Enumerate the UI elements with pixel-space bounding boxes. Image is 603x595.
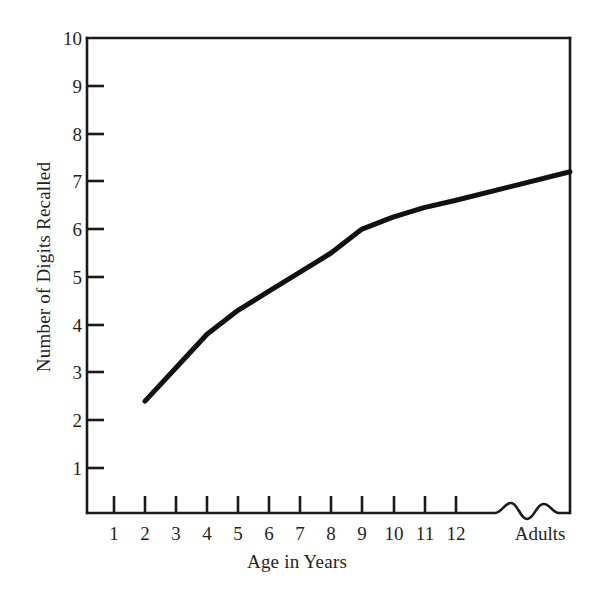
y-axis-ticks bbox=[87, 86, 104, 468]
chart-figure: Number of Digits Recalled Age in Years 1… bbox=[0, 0, 603, 595]
plot-area bbox=[0, 0, 603, 595]
x-axis-line-with-break bbox=[87, 503, 570, 519]
x-axis-ticks bbox=[114, 496, 456, 513]
data-series-line bbox=[145, 172, 570, 401]
